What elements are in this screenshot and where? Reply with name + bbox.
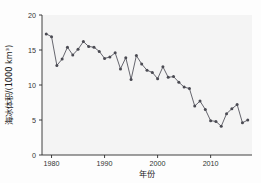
y-tick-label: 5 xyxy=(32,116,36,125)
x-tick-label: 2010 xyxy=(203,159,219,168)
data-point xyxy=(225,112,228,115)
y-axis-title: 海冰体积/(1000 km³) xyxy=(4,45,14,126)
data-point xyxy=(135,54,138,57)
data-point xyxy=(77,48,80,51)
data-point xyxy=(108,56,111,59)
x-axis-ticks: 1980199020002010 xyxy=(44,155,219,168)
data-point xyxy=(87,45,90,48)
data-point xyxy=(55,64,58,67)
y-tick-label: 15 xyxy=(28,46,36,55)
x-axis-title: 年份 xyxy=(139,169,155,179)
data-point xyxy=(188,87,191,90)
data-point xyxy=(98,50,101,53)
data-point xyxy=(82,40,85,43)
data-point xyxy=(241,121,244,124)
data-point xyxy=(71,53,74,56)
x-tick-label: 1980 xyxy=(44,159,60,168)
data-point xyxy=(214,120,217,123)
data-point xyxy=(119,67,122,70)
sea-ice-volume-chart-figure: 05101520 1980199020002010 年份 海冰体积/(1000 … xyxy=(0,0,261,183)
data-point xyxy=(177,81,180,84)
data-point xyxy=(199,100,202,103)
x-tick-label: 2000 xyxy=(150,159,166,168)
data-point xyxy=(209,119,212,122)
y-tick-label: 0 xyxy=(32,151,36,160)
data-point xyxy=(45,32,48,35)
data-point xyxy=(230,107,233,110)
x-tick-label: 1990 xyxy=(97,159,113,168)
y-tick-label: 20 xyxy=(28,11,36,20)
data-point xyxy=(236,103,239,106)
data-point xyxy=(220,125,223,128)
data-point xyxy=(183,86,186,89)
data-point xyxy=(146,69,149,72)
data-point xyxy=(114,51,117,54)
data-point xyxy=(140,63,143,66)
data-point xyxy=(167,76,170,79)
data-point xyxy=(156,77,159,80)
data-point xyxy=(172,75,175,78)
data-point xyxy=(130,78,133,81)
data-point xyxy=(92,46,95,49)
data-point xyxy=(124,56,127,59)
data-point xyxy=(246,119,249,122)
plot-area-background xyxy=(42,15,252,155)
data-point xyxy=(66,46,69,49)
y-tick-label: 10 xyxy=(28,81,36,90)
data-point xyxy=(151,71,154,74)
y-axis-ticks: 05101520 xyxy=(28,11,42,160)
data-point xyxy=(161,65,164,68)
chart-canvas: 05101520 1980199020002010 年份 海冰体积/(1000 … xyxy=(0,0,261,183)
data-point xyxy=(61,58,64,61)
data-point xyxy=(204,108,207,111)
data-point xyxy=(50,35,53,38)
data-point xyxy=(103,57,106,60)
data-point xyxy=(193,105,196,108)
